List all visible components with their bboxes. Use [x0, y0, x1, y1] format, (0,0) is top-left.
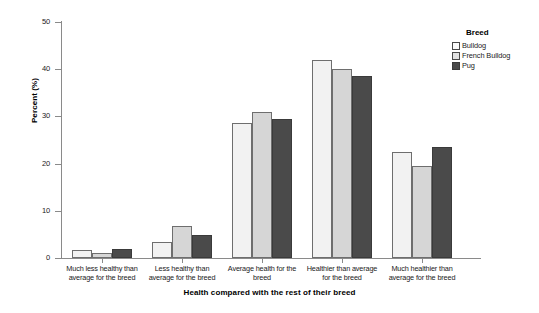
x-axis-title: Health compared with the rest of their b…: [0, 288, 539, 297]
bar-group: [222, 22, 302, 258]
bar-set: [392, 22, 453, 258]
bar-group: [142, 22, 222, 258]
x-axis-label: Healthier than averagefor the breed: [302, 264, 382, 283]
bar[interactable]: [72, 250, 92, 258]
legend-title: Breed: [466, 28, 538, 37]
legend-items: BulldogFrench BulldogPug: [452, 41, 538, 70]
bar-set: [152, 22, 213, 258]
y-axis-tick: [55, 258, 62, 259]
x-axis-tick: [262, 258, 263, 263]
bar[interactable]: [232, 123, 252, 258]
legend-swatch-icon: [452, 62, 460, 70]
x-axis-tick: [102, 258, 103, 263]
x-axis-label: Less healthy thanaverage for the breed: [142, 264, 222, 283]
x-axis-label: Average health for thebreed: [222, 264, 302, 283]
bar[interactable]: [392, 152, 412, 258]
y-axis-tick: [55, 22, 62, 23]
legend-swatch-icon: [452, 52, 460, 60]
bar[interactable]: [432, 147, 452, 258]
legend-item[interactable]: French Bulldog: [452, 51, 538, 60]
bar-groups: [62, 22, 462, 258]
y-axis-tick-label: 20: [22, 159, 50, 168]
bar[interactable]: [272, 119, 292, 258]
bar[interactable]: [172, 226, 192, 258]
bar[interactable]: [412, 166, 432, 258]
y-axis-tick-label: 50: [22, 17, 50, 26]
bar[interactable]: [152, 242, 172, 258]
y-axis-title-wrap: Percent (%): [30, 51, 39, 151]
bar-group: [62, 22, 142, 258]
bar-set: [232, 22, 293, 258]
x-axis-tick: [342, 258, 343, 263]
x-axis-label: Much healthier thanaverage for the breed: [382, 264, 462, 283]
bar[interactable]: [312, 60, 332, 258]
y-axis-tick: [55, 116, 62, 117]
bar-set: [72, 22, 133, 258]
x-axis-labels: Much less healthy thanaverage for the br…: [62, 264, 462, 283]
bar-chart: 01020304050 Percent (%) Much less health…: [0, 0, 539, 313]
bar-set: [312, 22, 373, 258]
bar[interactable]: [112, 249, 132, 258]
legend-item-label: Pug: [462, 61, 475, 70]
x-axis-label: Much less healthy thanaverage for the br…: [62, 264, 142, 283]
y-axis-tick-label: 0: [22, 253, 50, 262]
bar[interactable]: [332, 69, 352, 258]
y-axis-tick: [55, 211, 62, 212]
legend-item-label: Bulldog: [462, 41, 486, 50]
y-axis-title: Percent (%): [30, 51, 39, 151]
bar[interactable]: [252, 112, 272, 258]
bar-group: [302, 22, 382, 258]
x-axis-tick: [182, 258, 183, 263]
bar[interactable]: [352, 76, 372, 258]
x-axis-line: [61, 258, 481, 259]
legend-item-label: French Bulldog: [462, 51, 510, 60]
bar-group: [382, 22, 462, 258]
x-axis-tick: [422, 258, 423, 263]
y-axis-tick: [55, 69, 62, 70]
y-axis-tick: [55, 164, 62, 165]
legend: Breed BulldogFrench BulldogPug: [452, 28, 538, 71]
y-axis-tick-label: 10: [22, 206, 50, 215]
bar[interactable]: [192, 235, 212, 258]
legend-item[interactable]: Pug: [452, 61, 538, 70]
legend-item[interactable]: Bulldog: [452, 41, 538, 50]
legend-swatch-icon: [452, 42, 460, 50]
